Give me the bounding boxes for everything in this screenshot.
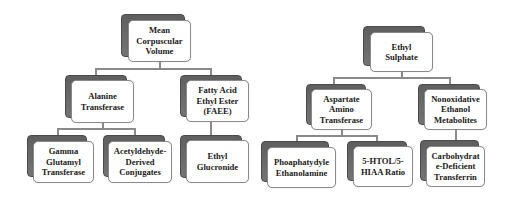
node-label: Fatty Acid Ethyl Ester (FAEE) xyxy=(195,85,241,117)
node-label: Carbohydrat e-Deficient Transferrin xyxy=(429,151,481,183)
node-box: Gamma Glutamyl Transferase xyxy=(33,141,94,183)
node-box: Carbohydrat e-Deficient Transferrin xyxy=(426,146,485,187)
node-box: Aspartate Amino Transferase xyxy=(311,89,372,130)
node-label: Gamma Glutamyl Transferase xyxy=(40,146,87,178)
node-box: Alanine Transferase xyxy=(71,80,134,123)
connector-faee-to-glucronide xyxy=(210,122,212,136)
node-box: Fatty Acid Ethyl Ester (FAEE) xyxy=(186,80,249,122)
node-label: 5-HTOL/5- HIAA Ratio xyxy=(359,156,407,177)
node-box: Ethyl Sulphate xyxy=(370,32,433,72)
node-box: Acetyldehyde- Derived Conjugates xyxy=(108,141,172,183)
connector-alanine-bus xyxy=(57,128,135,130)
node-label: Alanine Transferase xyxy=(79,91,126,112)
node-label: Ethyl Glucronide xyxy=(195,151,240,172)
node-box: Nonoxidative Ethanol Metabolites xyxy=(424,89,487,130)
node-box: 5-HTOL/5- HIAA Ratio xyxy=(353,146,413,187)
node-label: Phoaphatydyle Ethanolamine xyxy=(272,157,331,178)
node-label: Aspartate Amino Transferase xyxy=(318,94,365,126)
node-box: Ethyl Glucronide xyxy=(186,140,249,183)
node-label: Mean Corpuscular Volume xyxy=(134,25,184,57)
node-label: Ethyl Sulphate xyxy=(383,42,419,63)
node-box: Phoaphatydyle Ethanolamine xyxy=(267,147,336,188)
node-label: Acetyldehyde- Derived Conjugates xyxy=(112,146,169,178)
connector-aspartate-bus xyxy=(296,135,377,137)
connector-sulphate-bus xyxy=(333,77,450,79)
connector-mcv-bus xyxy=(95,68,211,70)
node-box: Mean Corpuscular Volume xyxy=(128,20,191,62)
node-label: Nonoxidative Ethanol Metabolites xyxy=(429,94,482,126)
